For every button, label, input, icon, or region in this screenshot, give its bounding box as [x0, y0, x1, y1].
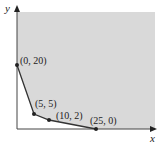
point-label-25-0: (25, 0) [90, 116, 117, 126]
corner-point [47, 118, 51, 122]
feasible-region [17, 12, 155, 129]
feasible-region-plot [0, 0, 163, 146]
corner-point [15, 63, 19, 67]
point-label-5-5: (5, 5) [35, 99, 57, 109]
point-label-10-2: (10, 2) [56, 111, 83, 121]
corner-point [94, 127, 98, 131]
y-axis-label: y [5, 3, 10, 14]
y-axis-arrow-icon [14, 5, 20, 12]
corner-point [32, 112, 36, 116]
point-label-0-20: (0, 20) [20, 56, 47, 66]
x-axis-label: x [150, 133, 155, 144]
